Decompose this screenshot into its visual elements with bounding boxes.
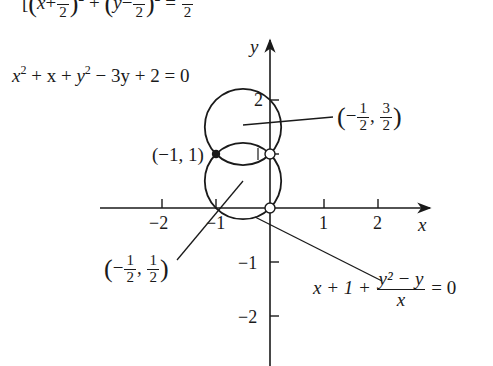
x-tick-label: −2 (149, 214, 168, 232)
point-label-neg1-1: (−1, 1) (152, 145, 204, 164)
open-point-0-1 (265, 149, 275, 159)
x-tick-label: 2 (373, 214, 382, 232)
lower-center-label: (−12, 12) (104, 253, 169, 286)
x-tick-label: 1 (319, 214, 328, 232)
y-tick-label: −2 (238, 308, 257, 326)
figure: [(x+12)2 + (y−12)2 = 12 x2 + x + y2 − 3y… (0, 0, 493, 366)
top-equation: [(x+12)2 + (y−12)2 = 12 (22, 0, 194, 21)
curve-equation: x + 1 + y² − yx = 0 (313, 269, 456, 310)
filled-point (212, 150, 220, 158)
open-point-origin (265, 203, 275, 213)
upper-center-label: (−12, 32) (337, 101, 402, 134)
y-tick-label: −1 (238, 254, 257, 272)
leader-upper-center (243, 117, 333, 125)
x-axis-label: x (418, 215, 426, 234)
y-tick-label: 2 (254, 91, 263, 109)
lens-upper-arc (216, 143, 270, 154)
circle-equation: x2 + x + y2 − 3y + 2 = 0 (12, 66, 189, 85)
lens-lower-arc (216, 154, 270, 165)
y-axis-label: y (250, 37, 258, 56)
x-tick-label: −1 (206, 214, 225, 232)
